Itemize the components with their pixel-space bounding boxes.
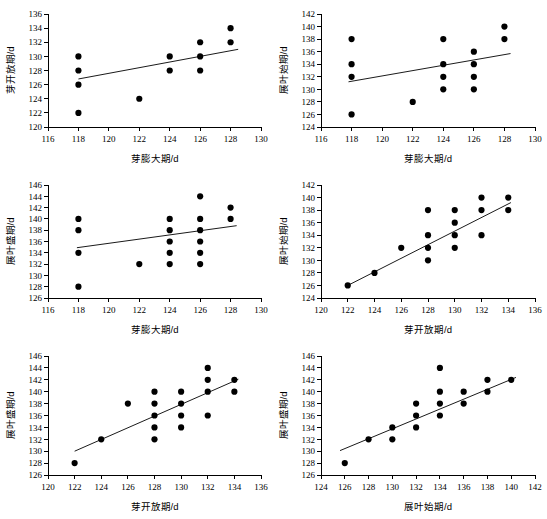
y-tick-label: 136	[302, 218, 316, 228]
scatter-chart-5: 1201221241261281301321341361261281301321…	[0, 342, 273, 519]
data-point	[197, 216, 203, 222]
scatter-chart-2: 1161181201221241261281301241261281301321…	[273, 0, 547, 171]
y-tick-label: 146	[302, 351, 316, 361]
x-tick-label: 136	[528, 305, 542, 315]
data-point	[75, 53, 81, 59]
y-tick-label: 142	[29, 203, 43, 213]
y-tick-label: 144	[29, 192, 43, 202]
x-tick-label: 126	[467, 134, 481, 144]
data-point	[440, 36, 446, 42]
data-point	[205, 389, 211, 395]
x-tick-label: 124	[368, 305, 382, 315]
scatter-panel-3: 1161181201221241261281301261281301321341…	[0, 171, 273, 342]
x-tick-label: 136	[254, 482, 268, 492]
y-tick-label: 128	[29, 282, 43, 292]
y-tick-label: 134	[29, 248, 43, 258]
x-tick-label: 130	[528, 134, 542, 144]
y-tick-label: 136	[29, 9, 43, 19]
y-axis-ticks: 126128130132134136138140142144146	[29, 180, 49, 303]
axes-group	[321, 14, 535, 127]
y-tick-label: 138	[302, 205, 316, 215]
x-tick-label: 132	[475, 305, 489, 315]
y-tick-label: 134	[302, 423, 316, 433]
y-tick-label: 128	[29, 458, 43, 468]
x-tick-label: 128	[224, 134, 238, 144]
data-point	[75, 110, 81, 116]
data-point	[508, 377, 514, 383]
scatter-chart-1: 1161181201221241261281301201221241261281…	[0, 0, 273, 171]
data-point	[437, 365, 443, 371]
data-point	[151, 401, 157, 407]
x-tick-label: 116	[41, 134, 55, 144]
data-point	[75, 250, 81, 256]
y-axis-title: 展叶盛期/d	[278, 392, 289, 440]
scatter-panel-2: 1161181201221241261281301241261281301321…	[273, 0, 547, 171]
y-tick-label: 132	[302, 72, 316, 82]
x-axis-ticks: 116118120122124126128130	[41, 298, 268, 315]
data-point	[348, 36, 354, 42]
x-tick-label: 124	[314, 482, 328, 492]
y-tick-label: 132	[302, 243, 316, 253]
x-tick-label: 126	[121, 482, 135, 492]
y-axis-ticks: 124126128130132134136138140142	[302, 180, 322, 303]
data-points-group	[75, 25, 233, 116]
data-point	[413, 412, 419, 418]
y-tick-label: 136	[302, 411, 316, 421]
x-tick-label: 128	[421, 305, 435, 315]
data-point	[227, 39, 233, 45]
data-point	[205, 365, 211, 371]
y-tick-label: 124	[29, 94, 43, 104]
x-tick-label: 138	[481, 482, 495, 492]
x-tick-label: 124	[163, 305, 177, 315]
data-point	[440, 86, 446, 92]
data-point	[231, 389, 237, 395]
x-tick-label: 120	[102, 305, 116, 315]
data-point	[205, 412, 211, 418]
y-tick-label: 142	[302, 375, 316, 385]
y-tick-label: 128	[29, 66, 43, 76]
y-tick-label: 126	[29, 293, 43, 303]
data-point	[413, 424, 419, 430]
x-tick-label: 128	[362, 482, 376, 492]
data-point	[461, 389, 467, 395]
data-point	[425, 245, 431, 251]
data-point	[365, 436, 371, 442]
y-tick-label: 138	[29, 225, 43, 235]
y-tick-label: 142	[302, 9, 316, 19]
data-point	[75, 227, 81, 233]
x-tick-label: 120	[102, 134, 116, 144]
data-point	[425, 207, 431, 213]
data-point	[75, 284, 81, 290]
x-tick-label: 120	[41, 482, 55, 492]
data-point	[167, 250, 173, 256]
scatter-plot-figure-grid: 1161181201221241261281301201221241261281…	[0, 0, 547, 519]
x-tick-label: 118	[72, 305, 86, 315]
x-tick-label: 116	[41, 305, 55, 315]
x-axis-title: 芽膨大期/d	[131, 153, 179, 164]
y-tick-label: 144	[29, 363, 43, 373]
y-axis-ticks: 120122124126128130132134136	[29, 9, 49, 132]
data-point	[342, 460, 348, 466]
x-tick-label: 120	[314, 305, 328, 315]
data-point	[398, 245, 404, 251]
x-axis-ticks: 116118120122124126128130	[41, 127, 268, 144]
x-tick-label: 128	[224, 305, 238, 315]
data-point	[440, 61, 446, 67]
data-point	[178, 401, 184, 407]
data-point	[136, 261, 142, 267]
data-point	[98, 436, 104, 442]
y-tick-label: 136	[29, 411, 43, 421]
x-tick-label: 130	[448, 305, 462, 315]
data-point	[197, 67, 203, 73]
x-tick-label: 130	[386, 482, 400, 492]
data-point	[501, 23, 507, 29]
data-point	[484, 389, 490, 395]
y-tick-label: 138	[29, 399, 43, 409]
data-point	[136, 96, 142, 102]
x-axis-title: 展叶始期/d	[404, 501, 452, 512]
scatter-panel-6: 1241261281301321341361381401421261281301…	[273, 342, 547, 519]
data-point	[75, 216, 81, 222]
y-tick-label: 146	[29, 351, 43, 361]
x-tick-label: 130	[254, 134, 268, 144]
x-tick-label: 132	[409, 482, 423, 492]
